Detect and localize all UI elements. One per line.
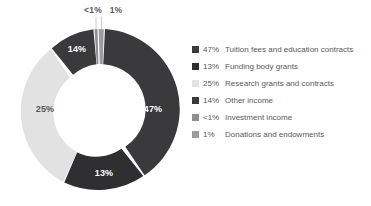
legend-label: Donations and endowments: [225, 126, 324, 143]
legend-swatch-icon: [192, 131, 199, 138]
legend-percent: <1%: [203, 109, 225, 126]
legend-label: Investment income: [225, 109, 292, 126]
slice-label-tuition-fees: 47%: [144, 104, 163, 114]
slice-label-investment-income: <1%: [84, 5, 102, 15]
legend-label: Other income: [225, 92, 273, 109]
slice-label-funding-body-grants: 13%: [95, 168, 114, 178]
legend-percent: 13%: [203, 58, 225, 75]
legend-percent: 1%: [203, 126, 225, 143]
donut-chart: 47% 13% 25% 14% <1% 1%: [0, 0, 191, 206]
slice-label-donations-endowments: 1%: [110, 5, 123, 15]
legend-item-investment-income[interactable]: <1% Investment income: [192, 109, 371, 126]
legend-label: Funding body grants: [225, 58, 298, 75]
donut-slice-donations-endowments[interactable]: [99, 29, 104, 64]
legend-swatch-icon: [192, 97, 199, 104]
legend-item-tuition-fees[interactable]: 47% Tuition fees and education contracts: [192, 41, 371, 58]
legend-swatch-icon: [192, 80, 199, 87]
legend-percent: 47%: [203, 41, 225, 58]
legend-item-funding-body-grants[interactable]: 13% Funding body grants: [192, 58, 371, 75]
legend-swatch-icon: [192, 114, 199, 121]
legend-swatch-icon: [192, 63, 199, 70]
slice-label-other-income: 14%: [68, 44, 87, 54]
donut-chart-svg: 47% 13% 25% 14% <1% 1%: [0, 0, 191, 206]
legend-swatch-icon: [192, 46, 199, 53]
slice-label-research-grants: 25%: [36, 104, 55, 114]
legend-percent: 14%: [203, 92, 225, 109]
legend-label: Research grants and contracts: [225, 75, 334, 92]
legend-item-donations-endowments[interactable]: 1% Donations and endowments: [192, 126, 371, 143]
donut-callout-lines: [96, 17, 102, 29]
legend-label: Tuition fees and education contracts: [225, 41, 353, 58]
chart-legend: 47% Tuition fees and education contracts…: [192, 41, 371, 143]
legend-item-other-income[interactable]: 14% Other income: [192, 92, 371, 109]
legend-percent: 25%: [203, 75, 225, 92]
legend-item-research-grants[interactable]: 25% Research grants and contracts: [192, 75, 371, 92]
